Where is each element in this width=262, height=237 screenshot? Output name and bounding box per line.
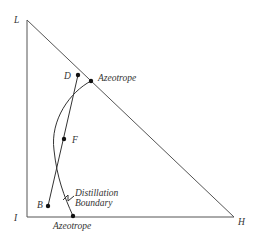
point-F bbox=[62, 137, 66, 141]
point-label-azeotrope-bottom: Azeotrope bbox=[52, 221, 91, 231]
point-label-D: D bbox=[63, 71, 71, 81]
boundary-label-line2: Boundary bbox=[75, 198, 113, 208]
vertex-label-I: I bbox=[13, 213, 18, 223]
point-label-F: F bbox=[71, 135, 78, 145]
point-azeotrope-top bbox=[89, 79, 93, 83]
vertex-label-L: L bbox=[13, 15, 19, 25]
point-D bbox=[76, 73, 80, 77]
point-azeotrope-bottom bbox=[71, 214, 75, 218]
boundary-label-line1: Distillation bbox=[74, 188, 119, 198]
ternary-diagram: L I H D Azeotrope F B Azeotrope Distilla… bbox=[0, 0, 262, 237]
point-label-azeotrope-top: Azeotrope bbox=[97, 73, 136, 83]
vertex-label-H: H bbox=[237, 217, 246, 227]
point-B bbox=[46, 204, 50, 208]
point-label-B: B bbox=[37, 200, 43, 210]
